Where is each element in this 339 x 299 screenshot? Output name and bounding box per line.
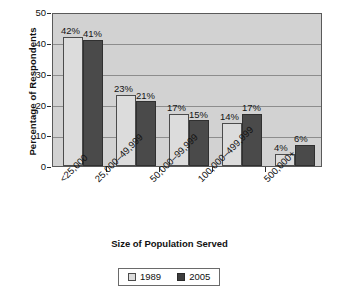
y-tick-label-0: 0 [24, 162, 46, 172]
y-tick-label-20: 20 [24, 101, 46, 111]
y-tick-mark-40 [47, 44, 51, 45]
light-swatch-icon [128, 273, 136, 281]
y-tick-mark-0 [47, 167, 51, 168]
bar-1989-1[interactable] [63, 37, 83, 166]
bar-value-2005-5: 6% [294, 134, 308, 144]
y-tick-label-30: 30 [24, 70, 46, 80]
legend-label-1989: 1989 [140, 272, 161, 282]
bar-value-1989-1: 42% [61, 26, 80, 36]
chart-legend: 1989 2005 [118, 268, 220, 286]
legend-item-2005[interactable]: 2005 [177, 272, 210, 282]
bar-value-2005-1: 41% [83, 29, 102, 39]
bar-value-1989-3: 17% [167, 103, 186, 113]
bar-value-2005-2: 21% [136, 91, 155, 101]
legend-label-2005: 2005 [189, 272, 210, 282]
y-tick-label-40: 40 [24, 39, 46, 49]
bar-value-2005-4: 17% [242, 103, 261, 113]
bar-value-1989-4: 14% [220, 112, 239, 122]
bar-2005-5[interactable] [295, 145, 315, 166]
y-axis-title: Percentage of Respondents [27, 12, 38, 172]
bar-value-2005-3: 15% [189, 110, 208, 120]
bar-chart-figure: Percentage of Respondents 50 40 30 20 10… [0, 0, 339, 299]
y-tick-mark-30 [47, 75, 51, 76]
y-tick-label-50: 50 [24, 8, 46, 18]
x-axis-title: Size of Population Served [0, 238, 339, 249]
y-tick-mark-20 [47, 106, 51, 107]
y-tick-mark-50 [47, 13, 51, 14]
y-tick-label-10: 10 [24, 131, 46, 141]
legend-item-1989[interactable]: 1989 [128, 272, 161, 282]
y-tick-mark-10 [47, 136, 51, 137]
bar-value-1989-2: 23% [114, 84, 133, 94]
dark-swatch-icon [177, 273, 185, 281]
bar-2005-1[interactable] [83, 40, 103, 166]
